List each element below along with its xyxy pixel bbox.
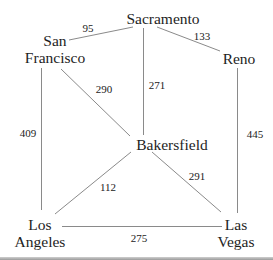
node-label-line1: Los	[15, 216, 66, 233]
node-sacramento: Sacramento	[126, 10, 199, 27]
node-label-line2: Francisco	[25, 49, 85, 66]
node-label-line1: San	[25, 32, 85, 49]
node-label-line2: Angeles	[15, 233, 66, 250]
weight-sf-los-angeles: 409	[20, 127, 37, 139]
weight-los-angeles-bakersfield: 112	[100, 181, 116, 193]
weight-sf-sacramento: 95	[83, 22, 94, 34]
node-las-vegas: Las Vegas	[217, 216, 254, 250]
node-san-francisco: San Francisco	[25, 32, 85, 66]
node-label: Sacramento	[126, 10, 199, 27]
node-label-line1: Las	[217, 216, 254, 233]
node-label: Reno	[223, 50, 256, 67]
weight-reno-las-vegas: 445	[247, 128, 264, 140]
edge-bakersfield-las-vegas	[152, 152, 221, 212]
node-los-angeles: Los Angeles	[15, 216, 66, 250]
weight-sacramento-bakersfield: 271	[149, 79, 166, 91]
node-label-line2: Vegas	[217, 233, 254, 250]
edge-sf-bakersfield	[61, 69, 130, 136]
edge-los-angeles-bakersfield	[55, 152, 131, 214]
weight-sacramento-reno: 133	[194, 30, 211, 42]
weight-bakersfield-las-vegas: 291	[189, 170, 206, 182]
weight-los-angeles-las-vegas: 275	[131, 232, 148, 244]
weight-sf-bakersfield: 290	[96, 83, 113, 95]
node-bakersfield: Bakersfield	[136, 136, 207, 153]
node-reno: Reno	[223, 50, 256, 67]
node-label: Bakersfield	[136, 136, 207, 153]
